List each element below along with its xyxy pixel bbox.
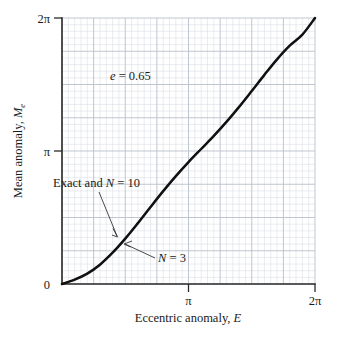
exact-label-value: = 10	[114, 176, 140, 190]
x-tick-label-pi: π	[185, 294, 192, 308]
y-axis-title-sub: e	[17, 104, 27, 108]
x-axis-title-var: E	[233, 311, 242, 325]
annotation-n-equals-3: N = 3	[157, 251, 186, 265]
chart-svg: 2π π 0 π 2π Eccentric anomaly, E Mean an…	[0, 0, 340, 338]
annotation-exact-and-n10: Exact and N = 10	[53, 176, 140, 190]
n3-label-value: = 3	[166, 251, 186, 265]
x-axis-title-main: Eccentric anomaly,	[135, 311, 234, 325]
x-tick-label-2pi: 2π	[309, 294, 322, 308]
y-axis-title-main: Mean anomaly,	[11, 118, 25, 198]
annotation-eccentricity: e = 0.65	[110, 69, 151, 83]
y-tick-label-2pi: 2π	[37, 12, 50, 26]
eccentricity-value: = 0.65	[116, 69, 151, 83]
exact-label-text: Exact and	[53, 176, 106, 190]
figure-background	[0, 0, 340, 338]
y-axis-title: Mean anomaly, Me	[11, 104, 27, 199]
y-axis-title-var: M	[11, 107, 25, 119]
x-axis-title: Eccentric anomaly, E	[135, 311, 242, 325]
y-tick-label-0: 0	[44, 278, 50, 292]
y-tick-label-pi: π	[44, 145, 51, 159]
kepler-equation-figure: 2π π 0 π 2π Eccentric anomaly, E Mean an…	[0, 0, 340, 338]
